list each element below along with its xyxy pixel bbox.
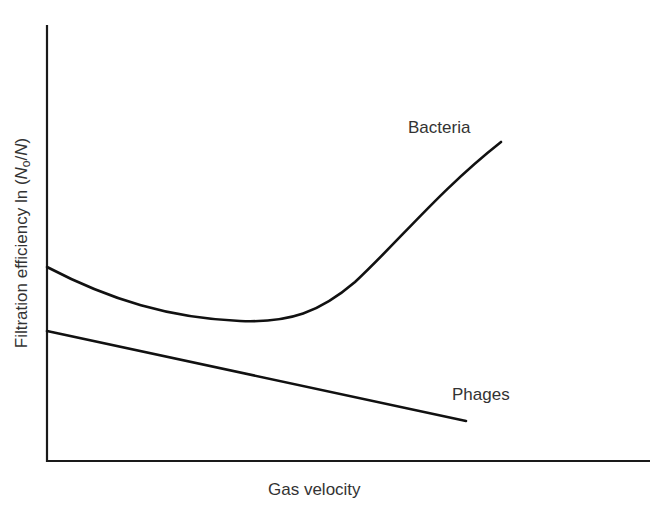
y-axis-label-suffix: )	[12, 138, 31, 144]
bacteria-label: Bacteria	[408, 118, 470, 138]
y-axis-label-prefix: Filtration efficiency ln (	[12, 179, 31, 348]
phages-label: Phages	[452, 385, 510, 405]
phages-line	[47, 331, 466, 421]
bacteria-curve	[47, 142, 501, 321]
y-axis-label: Filtration efficiency ln (No/N)	[12, 138, 33, 348]
y-axis-label-slash: /	[12, 156, 31, 161]
y-axis-label-n0: N	[12, 167, 31, 179]
y-axis-label-n0-subscript: o	[19, 160, 33, 167]
chart-canvas	[0, 0, 667, 512]
x-axis-label: Gas velocity	[268, 480, 361, 500]
y-axis-label-n: N	[12, 143, 31, 155]
